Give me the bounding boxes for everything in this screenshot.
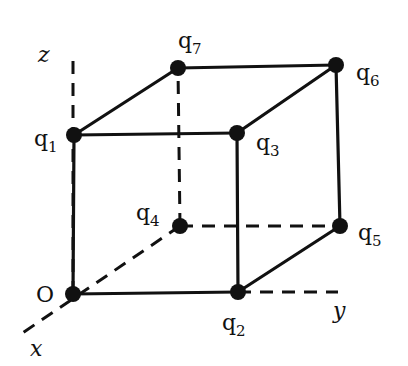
vertex-q6 (328, 57, 344, 73)
solid-edges (73, 65, 340, 294)
edge-q1-q7 (74, 68, 178, 135)
labels: zxyOq1q2q3q4q5q6q7 (30, 28, 382, 361)
edge-q7-q6 (178, 65, 336, 68)
cube-diagram: zxyOq1q2q3q4q5q6q7 (0, 0, 408, 366)
vertex-label-q5: q5 (358, 220, 382, 250)
axis-label-z: z (37, 42, 50, 67)
vertex-q5 (332, 218, 348, 234)
hidden-edge-q4-q7 (178, 68, 180, 226)
vertex-q2 (230, 284, 246, 300)
vertices (65, 57, 348, 302)
vertex-label-q6: q6 (356, 60, 380, 90)
vertex-label-q3: q3 (256, 130, 280, 160)
vertex-label-q1: q1 (34, 126, 58, 156)
vertex-O (65, 286, 81, 302)
axis-label-x: x (30, 336, 43, 361)
edge-O-q2 (73, 292, 238, 294)
edge-q2-q3 (237, 133, 238, 292)
edge-q6-q5 (336, 65, 340, 226)
axis-label-y: y (332, 298, 346, 323)
vertex-q3 (229, 125, 245, 141)
edge-q1-q3 (74, 133, 237, 135)
axis-x (18, 226, 180, 336)
edge-O-q1 (73, 135, 74, 294)
vertex-label-q7: q7 (178, 28, 202, 58)
vertex-q1 (66, 127, 82, 143)
vertex-label-O: O (36, 282, 54, 307)
vertex-q4 (172, 218, 188, 234)
edge-q2-q5 (238, 226, 340, 292)
edge-q3-q6 (237, 65, 336, 133)
vertex-label-q4: q4 (136, 200, 160, 230)
vertex-q7 (170, 60, 186, 76)
vertex-label-q2: q2 (222, 310, 246, 340)
